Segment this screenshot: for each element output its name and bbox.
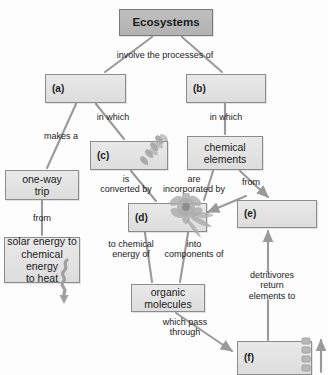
edge-label-from-chem: from xyxy=(242,177,260,187)
node-c[interactable]: (c) xyxy=(90,141,168,170)
node-label: chemical elements xyxy=(204,141,247,166)
node-label: Ecosystems xyxy=(132,16,199,30)
node-solar[interactable]: solar energy to chemical energy to heat xyxy=(4,237,80,283)
node-label: (c) xyxy=(97,150,109,162)
edge-label-detritivores: detritivores return elements to xyxy=(244,270,300,301)
node-oneway[interactable]: one-way trip xyxy=(5,170,79,200)
edge-label-from-left: from xyxy=(33,213,51,223)
edge-label-is-converted: is converted by xyxy=(100,174,152,195)
node-d[interactable]: (d) xyxy=(128,203,207,232)
node-label: (f) xyxy=(244,352,254,364)
node-label: (a) xyxy=(52,83,64,95)
node-label: organic molecules xyxy=(144,286,191,311)
concept-map-diagram: Ecosystems(a)(b)(c)chemical elementsone-… xyxy=(0,0,328,375)
node-b[interactable]: (b) xyxy=(186,74,266,103)
node-label: (d) xyxy=(135,212,148,224)
node-chem[interactable]: chemical elements xyxy=(187,136,263,170)
node-label: (b) xyxy=(193,83,206,95)
edge-label-in-which-left: in which xyxy=(97,112,130,122)
edge-label-are-incorp: are incorporated by xyxy=(163,174,225,195)
edge-label-in-which-right: in which xyxy=(210,112,243,122)
edge-label-makes-a: makes a xyxy=(44,131,78,141)
node-e[interactable]: (e) xyxy=(237,200,317,228)
node-f[interactable]: (f) xyxy=(237,341,312,375)
edge-label-involve: involve the processes of xyxy=(117,50,214,60)
node-organic[interactable]: organic molecules xyxy=(131,284,205,312)
node-label: (e) xyxy=(244,208,256,220)
node-ecosystems[interactable]: Ecosystems xyxy=(119,9,213,36)
node-label: solar energy to chemical energy to heat xyxy=(5,235,79,285)
edge-label-to-chemical: to chemical energy of xyxy=(108,239,154,260)
edge-label-which-pass: which pass through xyxy=(163,317,208,338)
edge-label-into-comp: into components of xyxy=(164,239,223,260)
node-a[interactable]: (a) xyxy=(45,74,126,103)
node-label: one-way trip xyxy=(22,173,62,198)
